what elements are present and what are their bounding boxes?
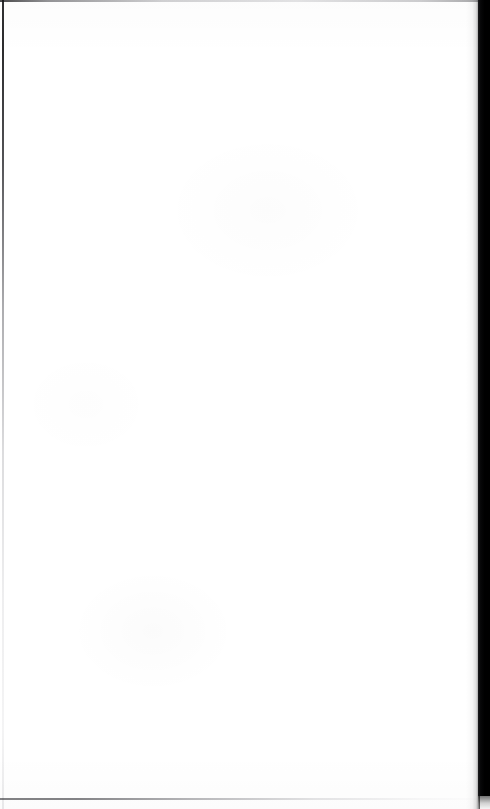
page-left-edge-line xyxy=(2,0,4,809)
page-top-edge-line xyxy=(0,0,478,2)
page-content-area xyxy=(34,42,444,758)
page-bottom-edge-line xyxy=(0,798,478,800)
scanner-gutter-foot xyxy=(478,796,490,809)
scanner-gutter-band xyxy=(478,0,490,796)
scanned-page-canvas xyxy=(0,0,490,809)
page-sheet xyxy=(0,0,478,809)
